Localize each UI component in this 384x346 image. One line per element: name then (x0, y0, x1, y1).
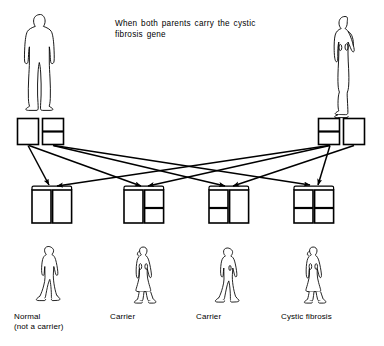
offspring-3-gene-box-right (315, 190, 334, 223)
offspring-1-gene-box-right (145, 190, 164, 223)
offspring-1-label: Carrier (110, 312, 135, 322)
father-figure (24, 15, 54, 111)
mother-gene-box-carrier (319, 119, 340, 145)
diagram-title-line-1: When both parents carry the cystic (115, 19, 280, 30)
offspring-3-child-figure (304, 247, 326, 303)
arrow-father-carrier-to-offspring-2 (53, 146, 225, 187)
mother-gene-box-normal (344, 119, 365, 145)
father-gene-box-normal (18, 119, 39, 145)
diagram-title-line-2: fibrosis gene (115, 30, 280, 41)
offspring-3-gene-box-left (294, 190, 313, 223)
father-gene-box-carrier (43, 119, 64, 145)
arrow-mother-normal-to-offspring-2 (233, 146, 354, 187)
diagram-title: When both parents carry the cystic fibro… (115, 19, 280, 40)
offspring-0-gene-box-right (53, 190, 72, 223)
diagram-canvas (0, 0, 384, 346)
arrow-mother-carrier-to-offspring-1 (148, 146, 330, 187)
offspring-2-label: Carrier (196, 312, 221, 322)
arrow-mother-normal-to-offspring-3 (318, 146, 330, 186)
offspring-0-label: Normal (not a carrier) (14, 312, 64, 332)
offspring-0-gene-box-left (32, 190, 51, 223)
offspring-0-child-figure (36, 246, 60, 300)
offspring-2-gene-box-left (209, 190, 228, 223)
cystic-fibrosis-inheritance-diagram: When both parents carry the cystic fibro… (0, 0, 384, 346)
offspring-2-gene-box-right (230, 190, 249, 223)
offspring-1-child-figure (134, 247, 156, 303)
offspring-1-gene-box-left (124, 190, 143, 223)
offspring-3-label: Cystic fibrosis (281, 312, 332, 322)
mother-figure (334, 17, 354, 118)
offspring-2-child-figure (215, 248, 239, 302)
